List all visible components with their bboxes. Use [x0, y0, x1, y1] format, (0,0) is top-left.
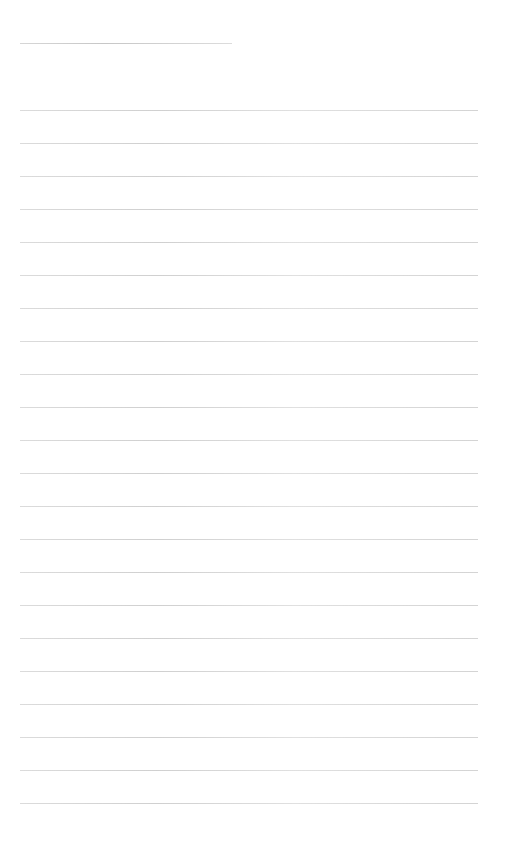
ruled-line [20, 341, 478, 342]
ruled-line [20, 605, 478, 606]
ruled-line [20, 737, 478, 738]
header-line [20, 43, 232, 44]
ruled-line [20, 473, 478, 474]
ruled-line [20, 242, 478, 243]
ruled-line [20, 143, 478, 144]
ruled-line [20, 770, 478, 771]
ruled-line [20, 671, 478, 672]
document-page [0, 0, 506, 851]
ruled-line [20, 176, 478, 177]
ruled-line [20, 110, 478, 111]
ruled-line [20, 209, 478, 210]
ruled-line [20, 308, 478, 309]
ruled-line [20, 638, 478, 639]
ruled-line [20, 275, 478, 276]
ruled-line [20, 374, 478, 375]
ruled-line [20, 506, 478, 507]
ruled-line [20, 539, 478, 540]
ruled-line [20, 572, 478, 573]
ruled-line [20, 440, 478, 441]
ruled-line [20, 704, 478, 705]
ruled-line [20, 803, 478, 804]
ruled-line [20, 407, 478, 408]
